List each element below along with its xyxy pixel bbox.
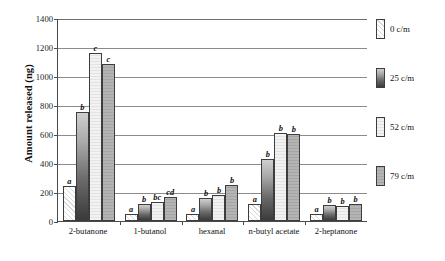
- legend-swatch: [376, 117, 385, 137]
- y-tick-label: 0: [49, 217, 53, 227]
- x-tick-mark: [120, 221, 121, 225]
- x-tick-mark: [243, 221, 244, 225]
- bar: b: [212, 195, 225, 221]
- significance-label: b: [266, 150, 270, 159]
- x-axis-labels: 2-butanone1-butanolhexanaln-butyl acetat…: [57, 226, 367, 236]
- significance-label: b: [340, 197, 344, 206]
- legend-item[interactable]: 79 c/m: [376, 166, 414, 186]
- bar-chart-figure: Amount released (ng) 0200400600800100012…: [0, 0, 445, 261]
- legend-swatch: [376, 19, 385, 39]
- legend-label: 0 c/m: [390, 24, 410, 34]
- y-tick-label: 200: [40, 188, 53, 198]
- legend-item[interactable]: 0 c/m: [376, 19, 410, 39]
- bar: bc: [151, 202, 164, 221]
- significance-label: a: [253, 195, 257, 204]
- significance-label: c: [107, 55, 111, 64]
- bar: a: [248, 204, 261, 221]
- significance-label: a: [67, 177, 71, 186]
- y-tick-mark: [54, 222, 58, 223]
- legend-item[interactable]: 52 c/m: [376, 117, 414, 137]
- bar: a: [310, 214, 323, 221]
- bar: b: [287, 134, 300, 221]
- significance-label: b: [292, 125, 296, 134]
- significance-label: a: [129, 205, 133, 214]
- legend-label: 25 c/m: [390, 73, 414, 83]
- y-tick-label: 1400: [36, 14, 53, 24]
- significance-label: b: [80, 103, 84, 112]
- bar: c: [102, 64, 115, 221]
- bar: a: [63, 186, 76, 221]
- legend-label: 79 c/m: [390, 171, 414, 181]
- y-tick-label: 1200: [36, 43, 53, 53]
- significance-label: a: [191, 205, 195, 214]
- y-tick-label: 1000: [36, 72, 53, 82]
- bar: b: [261, 159, 274, 221]
- significance-label: cd: [166, 188, 174, 197]
- bar-group-n-butyl-acetate: abbb: [243, 19, 305, 221]
- significance-label: b: [230, 176, 234, 185]
- x-axis-label: 2-butanone: [57, 226, 119, 236]
- y-tick-label: 400: [40, 159, 53, 169]
- legend-swatch: [376, 166, 385, 186]
- bar: b: [274, 133, 287, 221]
- x-tick-mark: [182, 221, 183, 225]
- bar: a: [125, 214, 138, 221]
- bar: b: [76, 112, 89, 221]
- x-tick-mark: [305, 221, 306, 225]
- bar-group-2-butanone: abcc: [58, 19, 120, 221]
- x-axis-label: hexanal: [181, 226, 243, 236]
- legend-item[interactable]: 25 c/m: [376, 68, 414, 88]
- legend-label: 52 c/m: [390, 122, 414, 132]
- significance-label: c: [94, 44, 98, 53]
- significance-label: b: [327, 196, 331, 205]
- bar: c: [89, 53, 102, 221]
- significance-label: a: [314, 205, 318, 214]
- bar: b: [336, 206, 349, 221]
- bar: a: [186, 214, 199, 221]
- legend: 0 c/m25 c/m52 c/m79 c/m: [376, 19, 442, 199]
- bar-group-1-butanol: abbccd: [120, 19, 182, 221]
- bar-group-hexanal: abbb: [182, 19, 244, 221]
- x-axis-label: n-butyl acetate: [243, 226, 305, 236]
- bar-group-2-heptanone: abbb: [305, 19, 367, 221]
- significance-label: b: [217, 186, 221, 195]
- significance-label: bc: [153, 193, 161, 202]
- significance-label: b: [279, 124, 283, 133]
- significance-label: b: [353, 195, 357, 204]
- significance-label: b: [204, 189, 208, 198]
- bar-groups: abccabbccdabbbabbbabbb: [58, 19, 367, 221]
- bar: b: [199, 198, 212, 221]
- bar: cd: [164, 197, 177, 221]
- x-axis-label: 2-heptanone: [305, 226, 367, 236]
- bar: b: [323, 205, 336, 221]
- legend-swatch: [376, 68, 385, 88]
- y-axis-title: Amount released (ng): [23, 34, 34, 194]
- bar: b: [349, 204, 362, 221]
- bar: b: [138, 204, 151, 221]
- y-tick-label: 600: [40, 130, 53, 140]
- y-tick-label: 800: [40, 101, 53, 111]
- plot-area: 0200400600800100012001400 abccabbccdabbb…: [57, 19, 367, 222]
- significance-label: b: [142, 195, 146, 204]
- bar: b: [225, 185, 238, 221]
- x-axis-label: 1-butanol: [119, 226, 181, 236]
